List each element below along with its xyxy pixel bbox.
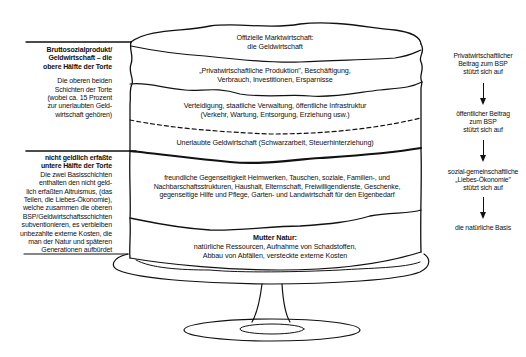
body-line: Die zwei Basisschichten bbox=[4, 171, 112, 179]
heading-line: nicht geldlich erfaßte bbox=[4, 154, 112, 162]
layer-love-line3: gegenseitige Hilfe und Pflege, Garten- u… bbox=[136, 191, 418, 200]
layer-public-line2: (Verkehr, Wartung, Entsorgung, Erziehung… bbox=[145, 111, 405, 120]
layer-love-line1: freundliche Gegenseitigkeit Heimwerken, … bbox=[136, 174, 418, 183]
body-line: welche zusammen die oberen bbox=[4, 204, 112, 212]
layer-top-subtitle: die Geldwirtschaft bbox=[200, 43, 350, 52]
body-line: man der Natur und späteren bbox=[4, 238, 112, 246]
cake-stand-base bbox=[184, 319, 360, 341]
body-line: zur unerlaubten Geld- bbox=[8, 102, 112, 110]
body-line: Teilen, die Liebes-Ökonomie), bbox=[4, 196, 112, 204]
chain-line: „Liebes-Ökonomie" bbox=[428, 176, 526, 184]
layer-boundary-dashed bbox=[130, 118, 421, 134]
layer-love-text: freundliche Gegenseitigkeit Heimwerken, … bbox=[136, 174, 418, 200]
right-chain-item-public: öffentlicher Beitrag zum BSP stützt sich… bbox=[428, 110, 526, 134]
heading-line: obere Hälfte der Torte bbox=[8, 63, 112, 71]
layer-boundary-4 bbox=[130, 210, 421, 230]
left-upper-annotation: Bruttosozialprodukt/ Geldwirtschaft – di… bbox=[8, 46, 112, 119]
left-upper-heading: Bruttosozialprodukt/ Geldwirtschaft – di… bbox=[8, 46, 112, 71]
layer-public-text: Verteidigung, staatliche Verwaltung, öff… bbox=[145, 102, 405, 120]
down-arrow-icon bbox=[483, 140, 484, 160]
heading-line: Geldwirtschaft – die bbox=[8, 54, 112, 62]
chain-line: Beitrag zum BSP bbox=[428, 60, 526, 68]
body-line: unbezahlte externe Kosten, die bbox=[4, 230, 112, 238]
body-line: lich erfaßten Altruismus, (das bbox=[4, 188, 112, 196]
layer-illegal-text: Unerlaubte Geldwirtschaft (Schwarzarbeit… bbox=[150, 139, 400, 148]
chain-line: stützt sich auf bbox=[428, 68, 526, 76]
down-arrow-icon bbox=[483, 83, 484, 103]
chain-line: öffentlicher Beitrag bbox=[428, 110, 526, 118]
chain-line: zum BSP bbox=[428, 118, 526, 126]
layer-nature-line2: Abbau von Abfällen, versteckte externe K… bbox=[160, 252, 390, 261]
cake-stand-stem bbox=[252, 284, 290, 322]
layer-private-line2: Verbrauch, Investitionen, Ersparnisse bbox=[150, 76, 400, 85]
heading-line: Bruttosozialprodukt/ bbox=[8, 46, 112, 54]
body-line: (wobei ca. 15 Prozent bbox=[8, 94, 112, 102]
chain-line: stützt sich auf bbox=[428, 184, 526, 192]
body-line: enthalten den nicht geld- bbox=[4, 179, 112, 187]
body-line: wirtschaft gehören) bbox=[8, 111, 112, 119]
left-lower-annotation: nicht geldlich erfaßte untere Hälfte der… bbox=[4, 154, 112, 255]
layer-boundary-main bbox=[130, 148, 421, 163]
left-lower-body: Die zwei Basisschichten enthalten den ni… bbox=[4, 171, 112, 255]
heading-line: untere Hälfte der Torte bbox=[4, 162, 112, 170]
chain-line: sozial-gemeinschaftliche bbox=[428, 168, 526, 176]
body-line: subventionieren, es verbleiben bbox=[4, 221, 112, 229]
body-line: BSP/Geldwirtschaftsschichten bbox=[4, 213, 112, 221]
layer-love-line2: Nachbarschaftsstrukturen, Haushalt, Elte… bbox=[136, 183, 418, 192]
layer-top-text: Offizielle Marktwirtschaft: die Geldwirt… bbox=[200, 34, 350, 52]
body-line: Generationen aufbürdet bbox=[4, 246, 112, 254]
layer-nature-text: Mutter Natur: natürliche Ressourcen, Auf… bbox=[160, 234, 390, 260]
left-upper-body: Die oberen beiden Schichten der Torte (w… bbox=[8, 77, 112, 119]
right-chain-item-love: sozial-gemeinschaftliche „Liebes-Ökonomi… bbox=[428, 168, 526, 192]
chain-line: Privatwirtschaftlicher bbox=[428, 52, 526, 60]
body-line: Schichten der Torte bbox=[8, 86, 112, 94]
layer-illegal-line1: Unerlaubte Geldwirtschaft (Schwarzarbeit… bbox=[150, 139, 400, 148]
chain-line: stützt sich auf bbox=[428, 126, 526, 134]
layer-private-text: „Privatwirtschaftliche Produktion", Besc… bbox=[150, 67, 400, 85]
right-chain-item-private: Privatwirtschaftlicher Beitrag zum BSP s… bbox=[428, 52, 526, 76]
down-arrow-icon bbox=[483, 197, 484, 217]
chain-line: die natürliche Basis bbox=[428, 224, 526, 232]
left-lower-heading: nicht geldlich erfaßte untere Hälfte der… bbox=[4, 154, 112, 171]
body-line: Die oberen beiden bbox=[8, 77, 112, 85]
right-chain-item-nature: die natürliche Basis bbox=[428, 224, 526, 232]
